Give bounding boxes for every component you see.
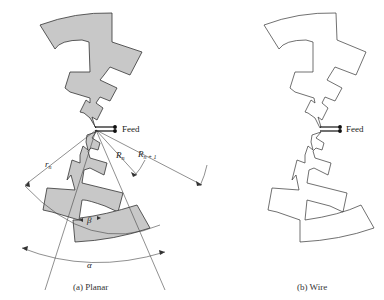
feed-line-a (95, 126, 116, 133)
label-beta: β (86, 215, 92, 225)
log-periodic-antenna-diagram: Feed rn Rn Rn + 1 β α Feed (0, 0, 384, 300)
label-R-n-plus-1: Rn + 1 (137, 149, 157, 160)
label-R-n: Rn (115, 150, 125, 161)
label-r-n: rn (45, 159, 52, 170)
caption-wire: (b) Wire (297, 282, 327, 292)
caption-planar: (a) Planar (73, 282, 108, 292)
feed-line-b (320, 126, 341, 133)
label-alpha: α (87, 260, 92, 270)
feed-label-a: Feed (122, 124, 140, 134)
feed-label-b: Feed (346, 124, 364, 134)
